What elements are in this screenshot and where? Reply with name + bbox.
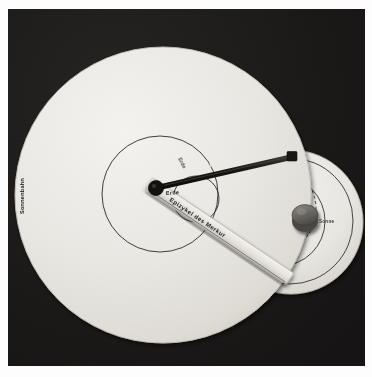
orrery-model-photo: Epizykel des Merkur Merkur Erde Erde Son… bbox=[8, 9, 365, 366]
sun-path-label: Sonnenbahn bbox=[19, 178, 25, 214]
earth-label: Erde bbox=[166, 189, 180, 196]
mercury-marker[interactable] bbox=[287, 152, 297, 162]
sun-label: Sonne bbox=[319, 219, 334, 224]
earth-pivot[interactable] bbox=[148, 180, 163, 195]
sun-knob[interactable] bbox=[292, 205, 318, 233]
screenshot-root: Epizykel des Merkur Merkur Erde Erde Son… bbox=[0, 0, 372, 377]
